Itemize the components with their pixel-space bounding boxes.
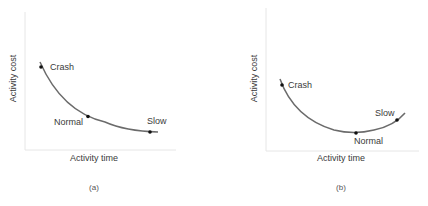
chart-a-x-label: Activity time	[70, 154, 118, 163]
chart-b-y-label: Activity cost	[250, 55, 259, 103]
chart-b-caption: (b)	[336, 184, 346, 192]
chart-b-point-normal	[354, 131, 358, 135]
chart-a-caption: (a)	[89, 184, 99, 192]
chart-b-label-normal: Normal	[354, 137, 383, 146]
chart-a-plot	[0, 0, 214, 206]
chart-a-point-normal	[86, 115, 90, 119]
chart-panel-b: Activity cost Crash Normal Slow Activity…	[214, 0, 428, 206]
chart-b-label-crash: Crash	[288, 81, 312, 90]
chart-b-plot	[214, 0, 428, 206]
chart-a-label-normal: Normal	[54, 118, 83, 127]
chart-a-label-crash: Crash	[50, 63, 74, 72]
chart-a-point-crash	[39, 65, 43, 69]
chart-a-y-label: Activity cost	[9, 55, 18, 103]
chart-b-label-slow: Slow	[375, 109, 395, 118]
chart-a-point-slow	[148, 130, 152, 134]
chart-b-point-crash	[280, 83, 284, 87]
chart-panel-a: Activity cost Crash Normal Slow Activity…	[0, 0, 214, 206]
chart-b-x-label: Activity time	[317, 154, 365, 163]
chart-a-label-slow: Slow	[147, 117, 167, 126]
chart-b-point-slow	[395, 118, 399, 122]
